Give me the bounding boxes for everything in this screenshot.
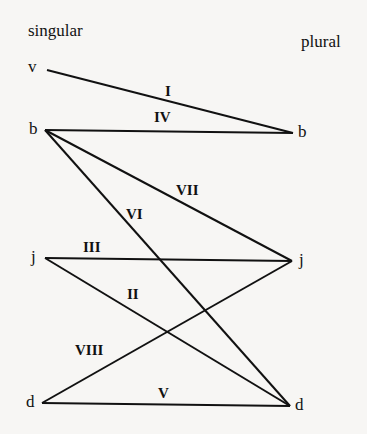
edge-label-I: I <box>165 84 171 99</box>
edge-VI <box>45 130 290 406</box>
edge-III <box>45 258 292 261</box>
node-singular-b: b <box>29 120 38 137</box>
edge-VIII <box>42 261 292 403</box>
node-plural-b: b <box>298 123 307 140</box>
node-singular-d: d <box>26 393 35 410</box>
node-plural-j: j <box>299 251 304 268</box>
edge-label-IV: IV <box>154 110 171 125</box>
node-singular-v: v <box>28 58 37 75</box>
edge-label-VI: VI <box>126 207 143 222</box>
edge-label-V: V <box>158 386 169 401</box>
node-singular-j: j <box>31 248 36 265</box>
node-plural-d: d <box>295 396 304 413</box>
edge-label-VIII: VIII <box>75 343 103 358</box>
header-singular: singular <box>28 22 83 39</box>
edge-label-VII: VII <box>176 183 199 198</box>
edge-IV <box>45 130 293 133</box>
edge-V <box>42 403 290 406</box>
correspondence-diagram <box>0 0 367 434</box>
edge-label-III: III <box>83 240 101 255</box>
edge-label-II: II <box>127 287 139 302</box>
header-plural: plural <box>301 33 341 50</box>
